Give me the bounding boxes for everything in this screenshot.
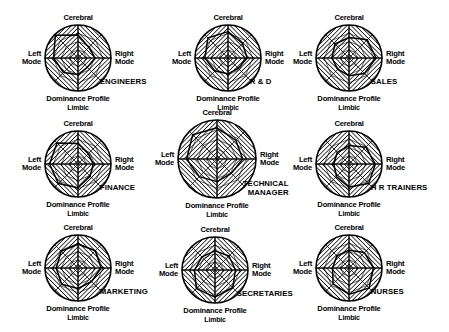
axis-label-right-mode: RightMode <box>115 50 134 65</box>
axis-label-right-line2: Mode <box>115 58 134 66</box>
axis-label-right-line2: Mode <box>115 268 134 276</box>
axis-label-left-line2: Mode <box>293 164 312 172</box>
axis-label-left-mode: LeftMode <box>22 50 41 65</box>
axis-label-cerebral: Cerebral <box>334 224 363 232</box>
axis-label-left-mode: LeftMode <box>159 262 178 277</box>
axis-label-right-mode: RightMode <box>115 156 134 171</box>
axis-label-limbic: Limbic <box>67 314 88 321</box>
axis-label-cerebral: Cerebral <box>334 120 363 128</box>
occupation-label-line: ENGINEERS <box>100 78 147 86</box>
axis-label-cerebral: Cerebral <box>213 14 242 22</box>
axis-label-cerebral: Cerebral <box>63 14 92 22</box>
occupation-label-line: H R TRAINERS <box>371 184 428 192</box>
caption-dominance-profile: Dominance Profile <box>46 201 109 209</box>
occupation-label: SECRETARIES <box>237 290 293 298</box>
caption-dominance-profile: Dominance Profile <box>183 307 246 315</box>
occupation-label-line: SALES <box>371 78 398 86</box>
caption-dominance-profile: Dominance Profile <box>317 95 380 103</box>
axis-label-right-line2: Mode <box>386 58 405 66</box>
axis-label-left-mode: LeftMode <box>293 260 312 275</box>
axis-label-limbic: Limbic <box>67 104 88 111</box>
occupation-label: SALES <box>371 78 398 86</box>
occupation-label-line: SECRETARIES <box>237 290 293 298</box>
axis-label-left-line2: Mode <box>22 58 41 66</box>
axis-label-cerebral: Cerebral <box>200 226 229 234</box>
caption-dominance-profile: Dominance Profile <box>317 305 380 313</box>
caption-dominance-profile: Dominance Profile <box>185 202 248 210</box>
caption-dominance-profile: Dominance Profile <box>46 95 109 103</box>
axis-label-limbic: Limbic <box>338 314 359 321</box>
axis-label-left-line2: Mode <box>293 268 312 276</box>
occupation-label: MARKETING <box>100 288 148 296</box>
axis-label-left-line2: Mode <box>293 58 312 66</box>
axis-label-left-line2: Mode <box>155 159 174 167</box>
axis-label-right-line2: Mode <box>265 58 284 66</box>
axis-label-left-mode: LeftMode <box>22 260 41 275</box>
axis-label-right-line2: Mode <box>386 164 405 172</box>
occupation-label-line: MANAGER <box>243 188 289 197</box>
axis-label-left-mode: LeftMode <box>155 151 174 166</box>
axis-label-right-mode: RightMode <box>260 151 279 166</box>
axis-label-cerebral: Cerebral <box>334 14 363 22</box>
axis-label-left-mode: LeftMode <box>22 156 41 171</box>
axis-label-right-line2: Mode <box>260 159 279 167</box>
axis-label-cerebral: Cerebral <box>63 120 92 128</box>
occupation-label: ENGINEERS <box>100 78 147 86</box>
axis-label-left-mode: LeftMode <box>293 50 312 65</box>
axis-label-limbic: Limbic <box>338 104 359 111</box>
axis-label-right-mode: RightMode <box>386 50 405 65</box>
axis-label-limbic: Limbic <box>206 211 227 218</box>
axis-label-limbic: Limbic <box>67 210 88 217</box>
axis-label-left-mode: LeftMode <box>293 156 312 171</box>
occupation-label: R & D <box>250 78 272 86</box>
axis-label-right-mode: RightMode <box>386 260 405 275</box>
occupation-label: FINANCE <box>100 184 135 192</box>
occupation-label-line: NURSES <box>371 288 404 296</box>
occupation-label: NURSES <box>371 288 404 296</box>
axis-label-right-mode: RightMode <box>115 260 134 275</box>
axis-label-cerebral: Cerebral <box>63 224 92 232</box>
axis-label-left-line2: Mode <box>172 58 191 66</box>
axis-label-left-line2: Mode <box>22 268 41 276</box>
axis-label-right-mode: RightMode <box>252 262 271 277</box>
occupation-label: TECHNICALMANAGER <box>243 179 289 197</box>
axis-label-cerebral: Cerebral <box>202 109 231 117</box>
axis-label-right-line2: Mode <box>386 268 405 276</box>
axis-label-left-line2: Mode <box>159 270 178 278</box>
axis-label-left-mode: LeftMode <box>172 50 191 65</box>
axis-label-right-line2: Mode <box>115 164 134 172</box>
axis-label-left-line2: Mode <box>22 164 41 172</box>
axis-label-limbic: Limbic <box>338 210 359 217</box>
axis-label-limbic: Limbic <box>204 316 225 323</box>
caption-dominance-profile: Dominance Profile <box>317 201 380 209</box>
axis-label-right-mode: RightMode <box>386 156 405 171</box>
occupation-label-line: FINANCE <box>100 184 135 192</box>
occupation-label: H R TRAINERS <box>371 184 428 192</box>
profiles-figure: CerebralLimbicDominance ProfileLeftModeR… <box>0 0 449 332</box>
occupation-label-line: MARKETING <box>100 288 148 296</box>
caption-dominance-profile: Dominance Profile <box>196 95 259 103</box>
occupation-label-line: TECHNICAL <box>243 179 289 188</box>
axis-label-right-mode: RightMode <box>265 50 284 65</box>
caption-dominance-profile: Dominance Profile <box>46 305 109 313</box>
axis-label-right-line2: Mode <box>252 270 271 278</box>
occupation-label-line: R & D <box>250 78 272 86</box>
